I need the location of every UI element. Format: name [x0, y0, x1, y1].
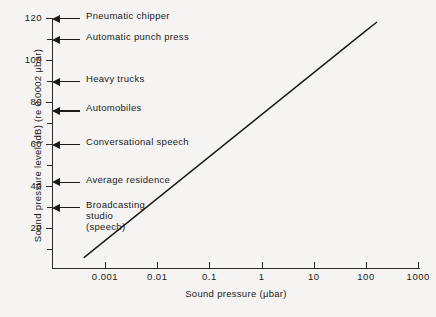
x-tick — [105, 262, 106, 269]
x-tick — [366, 262, 367, 269]
arrow-left-icon — [52, 140, 80, 149]
x-tick-label: 0.001 — [75, 272, 135, 282]
y-axis-title: Sound pressure level (dB) (re 0.0002 μba… — [32, 31, 43, 261]
annotation-item: Conversational speech — [52, 144, 189, 149]
x-axis-line — [52, 268, 420, 269]
y-tick-minor — [47, 249, 52, 250]
sound-pressure-level-chart: 20406080100120 0.0010.010.11101001000 So… — [0, 0, 436, 317]
annotation-label: Heavy trucks — [86, 73, 145, 84]
annotation-item: Automatic punch press — [52, 39, 189, 44]
x-tick-label: 10 — [284, 272, 344, 282]
x-tick-label: 1000 — [388, 272, 436, 282]
x-tick-label: 0.1 — [179, 272, 239, 282]
y-tick-major — [46, 60, 52, 61]
annotation-label: Average residence — [86, 174, 170, 185]
x-tick — [157, 262, 158, 269]
arrow-left-icon — [52, 77, 80, 86]
annotation-label: Conversational speech — [86, 136, 189, 147]
y-tick-major — [46, 102, 52, 103]
x-tick — [314, 262, 315, 269]
arrow-left-icon — [52, 106, 80, 115]
arrow-left-icon — [52, 203, 80, 212]
y-tick-minor — [47, 165, 52, 166]
annotation-item: Heavy trucks — [52, 81, 145, 86]
annotation-label: Automatic punch press — [86, 31, 189, 42]
annotation-label: Automobiles — [86, 102, 142, 113]
arrow-left-icon — [52, 14, 80, 23]
y-tick-label: 120 — [0, 13, 42, 23]
annotation-item: Automobiles — [52, 110, 142, 115]
x-tick — [262, 262, 263, 269]
x-tick-label: 0.01 — [127, 272, 187, 282]
annotation-label: Pneumatic chipper — [86, 10, 170, 21]
annotation-item: Average residence — [52, 182, 170, 187]
y-tick-minor — [47, 123, 52, 124]
data-line-layer — [0, 0, 436, 317]
x-tick — [418, 262, 419, 269]
arrow-left-icon — [52, 35, 80, 44]
annotation-item: Pneumatic chipper — [52, 18, 170, 23]
x-axis-title: Sound pressure (μbar) — [52, 288, 420, 299]
x-tick — [209, 262, 210, 269]
x-tick-label: 100 — [336, 272, 396, 282]
annotation-item: Broadcasting studio (speech) — [52, 207, 145, 232]
x-tick-label: 1 — [232, 272, 292, 282]
annotation-label: Broadcasting studio (speech) — [86, 199, 145, 232]
arrow-left-icon — [52, 178, 80, 187]
